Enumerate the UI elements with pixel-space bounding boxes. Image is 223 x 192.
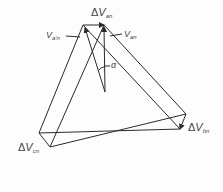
delta-vcn-segment xyxy=(39,133,50,147)
phasor-lines xyxy=(0,0,223,192)
delta-vbn-segment xyxy=(180,114,186,129)
label-delta-vcn: ΔVcn xyxy=(18,142,39,154)
triangle-original xyxy=(50,25,186,147)
triangle-primed xyxy=(39,25,180,133)
phasor-diagram: ΔVan Va'n Van α ΔVbn ΔVcn xyxy=(0,0,223,192)
label-delta-vbn: ΔVbn xyxy=(188,122,209,134)
va-prime-n-leader xyxy=(66,36,80,37)
label-van: Van xyxy=(124,30,137,40)
alpha-arc xyxy=(99,67,104,70)
label-delta-van: ΔVan xyxy=(91,7,112,19)
label-alpha: α xyxy=(111,61,116,70)
van-arrow xyxy=(104,27,105,92)
label-va-prime-n: Va'n xyxy=(46,31,60,41)
van-leader xyxy=(110,34,122,36)
